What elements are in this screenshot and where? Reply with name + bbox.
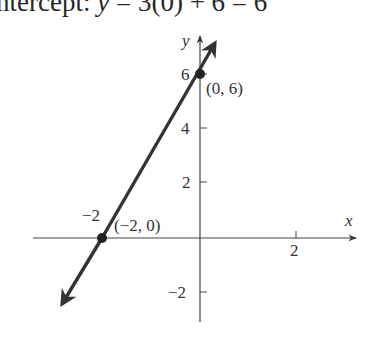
y-tick-label-2: 2	[182, 173, 191, 192]
x-axis-label: x	[344, 211, 353, 230]
line-y-3x-plus-6-lower	[62, 238, 102, 304]
y-tick-label-neg2: −2	[168, 283, 186, 302]
coordinate-plane: 6 4 2 −2 2 −2 x y (0, 6) (−2, 0)	[0, 0, 372, 341]
point-label-0-6: (0, 6)	[206, 79, 243, 98]
x-tick-label-neg2: −2	[82, 206, 100, 225]
y-tick-label-4: 4	[181, 119, 190, 138]
point-label-neg2-0: (−2, 0)	[114, 216, 160, 235]
y-axis-label: y	[180, 31, 190, 50]
y-tick-label-6: 6	[181, 65, 190, 84]
point-0-6	[195, 69, 205, 79]
x-tick-label-2: 2	[290, 241, 299, 260]
point-neg2-0	[97, 233, 107, 243]
